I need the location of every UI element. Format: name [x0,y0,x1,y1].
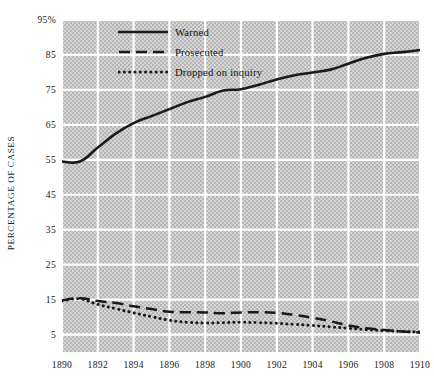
chart-legend: WarnedProsecutedDropped on inquiry [118,22,308,82]
legend-item[interactable]: Warned [118,22,308,42]
legend-swatch-dashed [118,45,168,59]
legend-swatch-dotted [118,65,168,79]
legend-label: Prosecuted [175,47,223,58]
x-axis-tick-label: 1910 [397,360,434,370]
legend-item[interactable]: Dropped on inquiry [118,62,308,82]
legend-item[interactable]: Prosecuted [118,42,308,62]
legend-swatch-solid [118,25,168,39]
legend-label: Warned [175,27,209,38]
chart-container: PERCENTAGE OF CASES 95%85756555453525155… [0,0,434,386]
legend-label: Dropped on inquiry [175,67,262,78]
